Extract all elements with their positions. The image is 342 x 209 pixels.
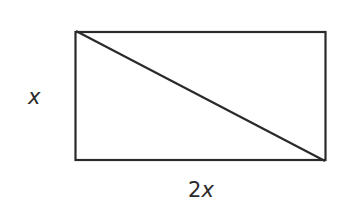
height-label: x <box>27 85 41 109</box>
diagonal-line <box>76 31 325 161</box>
width-label-variable: x <box>200 178 214 202</box>
width-label: 2x <box>188 178 214 202</box>
rectangle-diagram: x 2x <box>0 0 342 209</box>
width-label-coefficient: 2 <box>188 178 201 202</box>
